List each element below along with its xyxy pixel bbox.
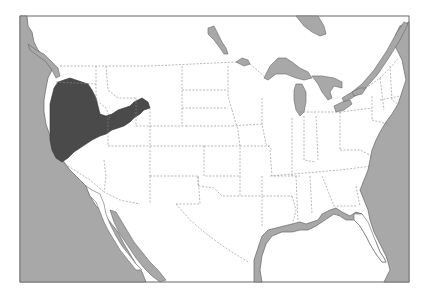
us-map: [0, 0, 430, 293]
map-container: [0, 0, 430, 293]
